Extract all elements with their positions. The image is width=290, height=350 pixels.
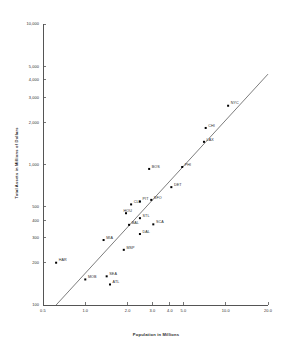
y-tick-label: 500 (32, 204, 40, 209)
data-point-label: NYC (231, 101, 239, 105)
plot-canvas: 1002003004005001,0002,0003,0004,0005,000… (0, 0, 290, 350)
data-point-marker (55, 262, 57, 264)
data-point: STL (139, 214, 150, 219)
x-tick-label: 5.0 (181, 308, 187, 313)
data-point-label: STL (143, 214, 150, 218)
data-point: BOS (148, 165, 160, 170)
data-point-marker (139, 217, 141, 219)
data-point-label: CHI (208, 124, 215, 128)
data-point: LAX (203, 138, 214, 143)
data-point: MIA (103, 236, 114, 241)
y-tick-label: 2,000 (29, 120, 40, 125)
data-point: SCA (152, 220, 164, 225)
y-tick-label: 400 (32, 218, 40, 223)
data-point-label: SCA (156, 220, 164, 224)
x-tick-label: 4.0 (167, 308, 173, 313)
data-point-label: HAR (59, 258, 67, 262)
data-point-label: DAL (143, 230, 150, 234)
data-point-marker (170, 186, 172, 188)
data-point: MOB (84, 275, 97, 280)
data-point-label: SEA (109, 272, 117, 276)
data-point-marker (139, 201, 141, 203)
data-point-marker (128, 224, 130, 226)
data-point-label: SFO (154, 196, 162, 200)
y-tick-label: 1,000 (29, 162, 40, 167)
data-point-marker (103, 239, 105, 241)
y-tick-label: 100 (32, 302, 40, 307)
data-point: DET (170, 183, 182, 188)
data-point-label: MIA (106, 236, 113, 240)
data-point: SEA (106, 272, 118, 277)
data-point-marker (152, 223, 154, 225)
data-point-marker (227, 105, 229, 107)
data-point-marker (181, 166, 183, 168)
data-point-marker (203, 141, 205, 143)
y-tick-label: 5,000 (29, 64, 40, 69)
x-tick-label: 3.0 (149, 308, 155, 313)
data-point-marker (106, 275, 108, 277)
x-tick-label: 20.0 (264, 308, 273, 313)
data-point-label: BOS (152, 165, 161, 169)
data-point: HOU (123, 209, 132, 214)
x-tick-label: 2.0 (125, 308, 131, 313)
regression-line (56, 74, 268, 305)
y-axis-title: Total Assets in Millions of Dollars (14, 127, 19, 199)
data-point-marker (84, 278, 86, 280)
data-point: CHI (205, 124, 215, 129)
data-point: HAR (55, 258, 67, 263)
data-point-marker (205, 127, 207, 129)
data-point: SFO (150, 196, 162, 201)
data-point-label: BAL (132, 221, 139, 225)
x-tick-label: 0.5 (40, 308, 46, 313)
data-point-marker (123, 249, 125, 251)
data-point-label: PIT (143, 197, 150, 201)
x-tick-label: 10.0 (222, 308, 231, 313)
y-tick-label: 4,000 (29, 77, 40, 82)
data-point-group: HARMOBSEAATLMIAMSPBALHOUCLEPITSTLDALSCAS… (55, 101, 239, 285)
data-point-marker (109, 283, 111, 285)
data-point-label: MOB (88, 275, 97, 279)
data-point: NYC (227, 101, 239, 106)
y-tick-label: 10,000 (26, 21, 39, 26)
data-point: BAL (128, 221, 139, 226)
y-tick-label: 300 (32, 235, 40, 240)
data-point-marker (130, 203, 132, 205)
data-point: ATL (109, 280, 119, 285)
data-point: MSP (123, 246, 135, 251)
data-point-label: MSP (126, 246, 135, 250)
data-point-label: PHI (185, 163, 191, 167)
x-axis-ticks: 0.51.02.03.04.05.010.020.0 (40, 302, 273, 313)
data-point-marker (148, 168, 150, 170)
x-tick-label: 1.0 (82, 308, 88, 313)
data-point-label: ATL (113, 280, 120, 284)
y-tick-label: 200 (32, 260, 40, 265)
x-axis-title: Population in Millions (133, 332, 180, 337)
data-point-label: LAX (207, 138, 215, 142)
data-point-marker (139, 233, 141, 235)
scatter-plot-figure: 1002003004005001,0002,0003,0004,0005,000… (0, 0, 290, 350)
data-point: PHI (181, 163, 191, 168)
data-point-marker (150, 199, 152, 201)
data-point-label: DET (174, 183, 182, 187)
data-point: DAL (139, 230, 150, 235)
y-tick-label: 3,000 (29, 95, 40, 100)
data-point-label: HOU (123, 209, 132, 213)
